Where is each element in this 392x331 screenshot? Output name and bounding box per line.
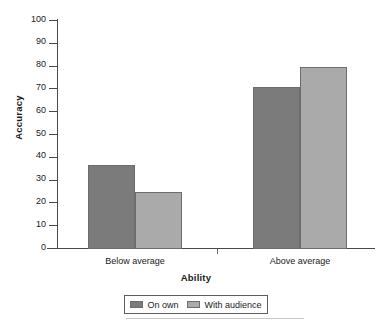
legend-swatch bbox=[130, 301, 143, 308]
x-axis-title: Ability bbox=[0, 272, 392, 283]
legend-label: With audience bbox=[204, 300, 261, 310]
bar-on-own-below-average bbox=[88, 165, 135, 249]
x-axis-label-above-average: Above average bbox=[240, 256, 360, 266]
bar-with-audience-below-average bbox=[135, 192, 182, 249]
legend-entry-with-audience: With audience bbox=[187, 300, 261, 310]
legend-label: On own bbox=[147, 300, 178, 310]
bar-chart: Accuracy 1009080706050403020100 Below av… bbox=[0, 0, 392, 331]
legend-entry-on-own: On own bbox=[130, 300, 178, 310]
bar-with-audience-above-average bbox=[300, 67, 347, 249]
scan-artifact-line bbox=[126, 318, 304, 319]
legend-swatch bbox=[187, 301, 200, 308]
bar-on-own-above-average bbox=[253, 87, 300, 249]
chart-legend: On ownWith audience bbox=[124, 295, 268, 314]
bars-layer bbox=[0, 0, 392, 249]
x-axis-label-below-average: Below average bbox=[75, 256, 195, 266]
x-axis-mid-tick bbox=[217, 249, 218, 254]
